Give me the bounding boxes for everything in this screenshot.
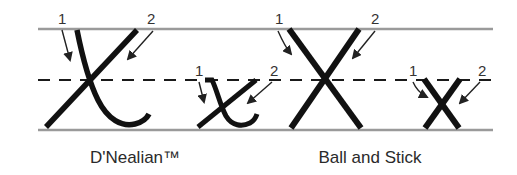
dnealian-lowercase-x: 1 2 bbox=[195, 62, 278, 127]
stroke-number-1: 1 bbox=[58, 10, 66, 27]
stroke-number-2: 2 bbox=[147, 10, 155, 27]
stroke-number-2: 2 bbox=[478, 62, 486, 79]
dnealian-upper-stroke-1 bbox=[77, 30, 149, 125]
stroke-direction-arrow bbox=[62, 30, 70, 60]
ball-and-stick-label: Ball and Stick bbox=[319, 148, 422, 167]
handwriting-comparison-diagram: 1 2 1 2 1 2 1 2 D'Nealian™ Ball and Stic… bbox=[0, 0, 517, 175]
stroke-direction-arrow bbox=[460, 82, 480, 103]
dnealian-upper-stroke-2 bbox=[46, 30, 137, 127]
stroke-direction-arrow bbox=[199, 82, 204, 102]
stroke-number-2: 2 bbox=[270, 62, 278, 79]
dnealian-uppercase-x: 1 2 bbox=[46, 10, 155, 127]
ball-and-stick-uppercase-x: 1 2 bbox=[275, 10, 379, 128]
stroke-direction-arrow bbox=[278, 31, 291, 54]
dnealian-label: D'Nealian™ bbox=[90, 148, 180, 167]
stroke-number-1: 1 bbox=[409, 62, 417, 79]
stroke-number-1: 1 bbox=[275, 10, 283, 27]
ball-and-stick-lowercase-x: 1 2 bbox=[409, 62, 486, 128]
stroke-number-1: 1 bbox=[195, 62, 203, 79]
stroke-number-2: 2 bbox=[371, 10, 379, 27]
